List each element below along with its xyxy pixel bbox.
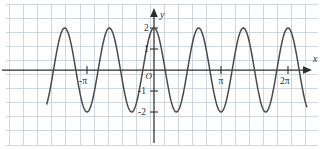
x-tick-label: π	[219, 76, 224, 86]
y-tick-label: -1	[138, 86, 146, 96]
y-tick-label: -2	[138, 107, 146, 117]
x-tick-label: 2π	[280, 76, 290, 86]
y-tick-label: 1	[144, 44, 149, 54]
origin-label: O	[146, 71, 153, 81]
x-axis-label: x	[312, 53, 318, 64]
coordinate-plane-svg: x y O 21-1-2 -ππ2π	[0, 0, 324, 149]
y-tick-label: 2	[144, 23, 149, 33]
x-tick-label: -π	[79, 76, 87, 86]
y-axis-label: y	[159, 9, 165, 20]
graph-figure: x y O 21-1-2 -ππ2π	[0, 0, 324, 149]
